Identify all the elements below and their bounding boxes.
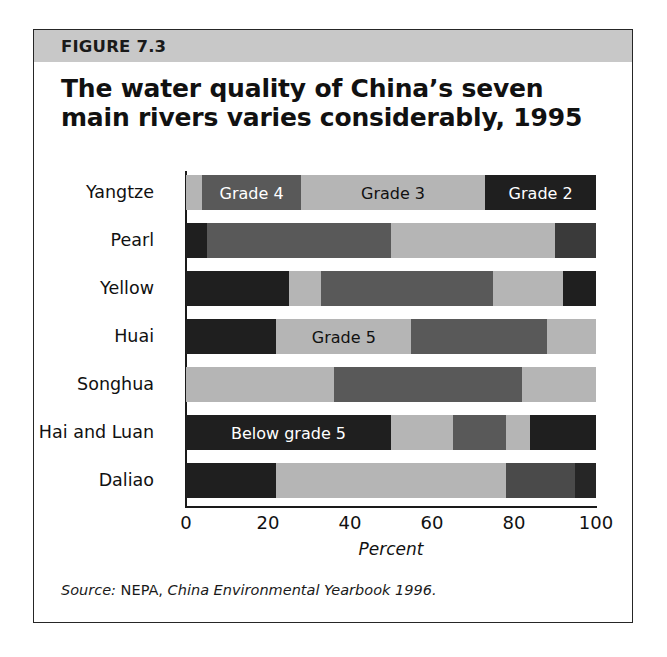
bar-segment-grade-3	[276, 463, 506, 498]
bar-segment-below-grade-5: Below grade 5	[186, 415, 391, 450]
bar-segment-grade-4	[411, 319, 546, 354]
figure-title: The water quality of China’s seven main …	[61, 74, 606, 132]
bar-segment-grade-2	[186, 319, 276, 354]
x-tick-60: 60	[421, 512, 444, 533]
figure-header-band: FIGURE 7.3	[34, 30, 632, 62]
bar-segment-grade-4	[506, 463, 576, 498]
bar-segment-grade-4: Grade 4	[202, 175, 300, 210]
stacked-bar: Grade 4Grade 3Grade 2	[186, 175, 596, 210]
bar-segment-grade-5	[522, 367, 596, 402]
bar-segment-grade-3	[289, 271, 322, 306]
source-publication-title: China Environmental Yearbook 1996.	[168, 582, 437, 598]
bar-segment-grade-5: Grade 5	[276, 319, 411, 354]
stacked-bar	[186, 223, 596, 258]
x-axis-line	[185, 506, 597, 508]
x-tick-20: 20	[257, 512, 280, 533]
row-label-hai-and-luan: Hai and Luan	[34, 422, 154, 442]
figure-page: FIGURE 7.3 The water quality of China’s …	[0, 0, 667, 657]
x-axis-tick-labels: 020406080100	[34, 512, 632, 538]
chart-row: HuaiGrade 5	[34, 315, 632, 360]
bar-segment-below-grade-5	[555, 223, 596, 258]
x-tick-80: 80	[503, 512, 526, 533]
row-label-daliao: Daliao	[34, 470, 154, 490]
segment-label: Grade 5	[276, 327, 411, 346]
chart-row: Songhua	[34, 363, 632, 408]
stacked-bar	[186, 367, 596, 402]
row-label-yangtze: Yangtze	[34, 182, 154, 202]
chart-row: Pearl	[34, 219, 632, 264]
bar-segment-grade-3	[186, 175, 202, 210]
stacked-bar: Below grade 5	[186, 415, 596, 450]
row-label-huai: Huai	[34, 326, 154, 346]
segment-label: Below grade 5	[186, 423, 391, 442]
segment-label: Grade 4	[202, 183, 300, 202]
figure-number: FIGURE 7.3	[61, 37, 166, 56]
stacked-bar: Grade 5	[186, 319, 596, 354]
bar-segment-grade-4	[453, 415, 506, 450]
bar-segment-grade-2	[186, 463, 276, 498]
bar-segment-grade-2	[186, 271, 289, 306]
x-tick-0: 0	[180, 512, 191, 533]
bar-segment-grade-4	[321, 271, 493, 306]
chart-row: YangtzeGrade 4Grade 3Grade 2	[34, 171, 632, 216]
bar-segment-grade-3	[186, 367, 334, 402]
bar-segment-grade-5	[493, 271, 563, 306]
bar-segment-grade-5	[506, 415, 531, 450]
bar-segment-grade-3	[391, 223, 555, 258]
chart-row: Hai and LuanBelow grade 5	[34, 411, 632, 456]
chart-area: 020406080100 Percent YangtzeGrade 4Grade…	[34, 171, 632, 571]
bar-segment-below-grade-5	[575, 463, 596, 498]
bar-segment-grade-3	[547, 319, 596, 354]
bar-segment-grade-3: Grade 3	[301, 175, 486, 210]
chart-row: Yellow	[34, 267, 632, 312]
source-agency: NEPA,	[116, 582, 168, 598]
x-tick-100: 100	[579, 512, 613, 533]
stacked-bar	[186, 463, 596, 498]
row-label-songhua: Songhua	[34, 374, 154, 394]
figure-container: FIGURE 7.3 The water quality of China’s …	[33, 29, 633, 623]
bar-segment-grade-2	[530, 415, 596, 450]
x-axis-title: Percent	[185, 539, 597, 559]
chart-row: Daliao	[34, 459, 632, 504]
segment-label: Grade 3	[301, 183, 486, 202]
x-tick-40: 40	[339, 512, 362, 533]
bar-segment-grade-2: Grade 2	[485, 175, 596, 210]
stacked-bar	[186, 271, 596, 306]
segment-label: Grade 2	[485, 183, 596, 202]
source-prefix: Source:	[61, 582, 116, 598]
plot-region: 020406080100 Percent YangtzeGrade 4Grade…	[34, 171, 632, 571]
bar-segment-below-grade-5	[563, 271, 596, 306]
bar-segment-grade-2	[186, 223, 207, 258]
row-label-pearl: Pearl	[34, 230, 154, 250]
bar-segment-grade-4	[334, 367, 523, 402]
row-label-yellow: Yellow	[34, 278, 154, 298]
source-note: Source: NEPA, China Environmental Yearbo…	[61, 582, 437, 598]
bar-segment-grade-4	[207, 223, 392, 258]
bar-segment-grade-3	[391, 415, 453, 450]
